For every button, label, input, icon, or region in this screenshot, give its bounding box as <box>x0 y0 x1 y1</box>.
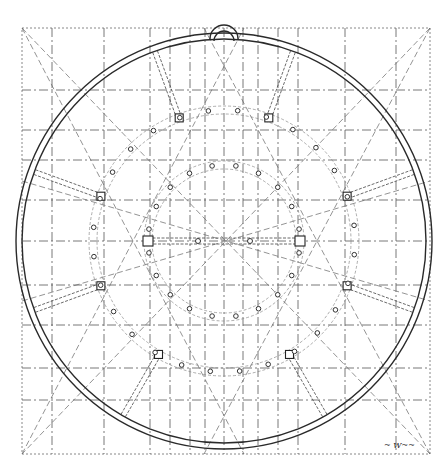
column <box>297 251 302 256</box>
column <box>256 171 261 176</box>
central-pier <box>143 236 153 246</box>
column <box>292 349 297 354</box>
column <box>314 145 319 150</box>
radial-beam <box>348 174 415 198</box>
column <box>234 164 239 169</box>
radial-beam <box>33 283 100 307</box>
radial-beam <box>33 174 100 198</box>
column <box>130 332 135 337</box>
column <box>256 306 261 311</box>
column <box>275 185 280 190</box>
column <box>111 309 116 314</box>
column <box>315 331 320 336</box>
central-column <box>196 239 201 244</box>
signature: ~ W~~ <box>384 441 415 450</box>
column <box>289 204 294 209</box>
radial-beam <box>35 170 102 194</box>
column <box>92 254 97 259</box>
radial-beam <box>271 52 295 119</box>
radial-beam <box>348 283 415 307</box>
column <box>291 127 296 132</box>
column <box>237 369 242 374</box>
column <box>91 225 96 230</box>
central-column <box>248 239 253 244</box>
column <box>147 251 152 256</box>
column <box>154 204 159 209</box>
radial-beam <box>35 288 102 312</box>
column <box>275 292 280 297</box>
radial-beam <box>153 52 177 119</box>
column <box>187 306 192 311</box>
column <box>297 227 302 232</box>
radial-beam <box>125 356 161 417</box>
radial-beam <box>292 353 328 414</box>
column <box>151 128 156 133</box>
radial-beam <box>346 288 413 312</box>
radial-beam <box>346 170 413 194</box>
radial-beam <box>121 353 156 414</box>
column <box>110 170 115 175</box>
architectural-plan: ~ W~~ <box>0 0 442 469</box>
column <box>210 314 215 319</box>
column <box>153 350 158 355</box>
column <box>206 109 211 114</box>
column <box>264 115 269 120</box>
column <box>98 283 103 288</box>
column <box>154 273 159 278</box>
radial-beam <box>266 50 290 117</box>
column <box>98 196 103 201</box>
column <box>168 185 173 190</box>
column <box>332 168 337 173</box>
radial-beam <box>157 50 181 117</box>
column <box>128 147 133 152</box>
column <box>234 314 239 319</box>
column <box>352 252 357 257</box>
column <box>266 362 271 367</box>
column <box>289 273 294 278</box>
central-pier <box>295 236 305 246</box>
column <box>187 171 192 176</box>
column <box>333 308 338 313</box>
column <box>352 223 357 228</box>
column <box>208 369 213 374</box>
column <box>168 292 173 297</box>
column <box>179 363 184 368</box>
radial-beam <box>287 356 323 417</box>
column <box>147 227 152 232</box>
column <box>345 195 350 200</box>
column <box>178 115 183 120</box>
column <box>235 108 240 113</box>
column <box>210 164 215 169</box>
column <box>346 281 351 286</box>
